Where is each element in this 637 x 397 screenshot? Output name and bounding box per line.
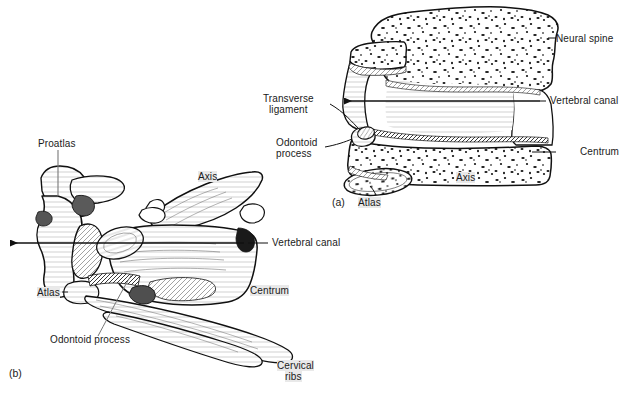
panel-a-drawing [325,7,558,199]
label-odontoid-process-b: Odontoid process [50,334,130,345]
label-odontoid-process-a-line1: Odontoid [276,137,317,148]
label-centrum-b: Centrum [250,285,289,296]
label-vertebral-canal-b: Vertebral canal [272,237,340,248]
label-neural-spine: Neural spine [556,33,613,44]
label-atlas-a: Atlas [358,197,381,208]
atlas-shaded-notch-1 [36,211,52,226]
leader-odontoid-a [325,139,352,147]
panel-tag-a: (a) [332,196,345,208]
label-cervical-ribs-line2: ribs [285,371,302,382]
label-atlas-b: Atlas [37,287,60,298]
label-cervical-ribs-line1: Cervical [277,360,314,371]
atlas-neural-arch-a [350,42,407,70]
atlas-axis-band-b [88,273,140,286]
label-vertebral-canal-a: Vertebral canal [550,95,618,106]
axis-centrum-shadow [148,278,216,301]
axis-parapophysis [129,286,155,304]
axis-prezyg-2 [139,208,165,224]
label-proatlas: Proatlas [38,138,76,149]
label-transverse-ligament-line1: Transverse [263,93,314,104]
axis-postzygapophysis [240,204,264,223]
vertebral-canal-notch-b [236,228,255,252]
panel-tag-b: (b) [9,367,22,379]
label-centrum-a: Centrum [580,146,619,157]
cervical-rib-1 [85,296,293,363]
label-transverse-ligament-line2: ligament [269,104,308,115]
label-axis-a: Axis [456,172,475,183]
label-axis-b: Axis [198,171,217,182]
label-odontoid-process-a-line2: process [276,148,312,159]
